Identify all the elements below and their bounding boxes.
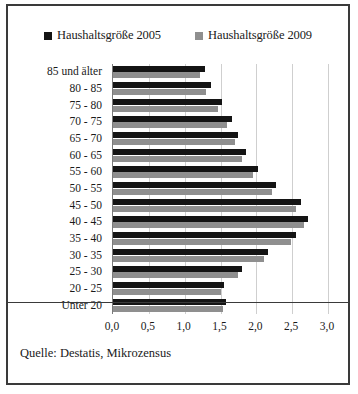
- legend-label-2005: Haushaltsgröße 2005: [57, 28, 161, 43]
- legend-label-2009: Haushaltsgröße 2009: [208, 28, 312, 43]
- legend-square-marker-2009: [195, 32, 203, 40]
- legend-square-marker-2005: [44, 32, 52, 40]
- bar-2005: [113, 199, 301, 205]
- bar-2005: [113, 249, 268, 255]
- y-axis-category-label: 50 - 55: [69, 183, 102, 195]
- bar-2009: [113, 89, 206, 95]
- y-axis-category-label: 75 - 80: [69, 100, 102, 112]
- x-tick-label: 1,5: [212, 320, 226, 332]
- bar-2005: [113, 166, 258, 172]
- y-axis-category-label: 65 - 70: [69, 133, 102, 145]
- bar-2009: [113, 139, 235, 145]
- bar-2005: [113, 182, 276, 188]
- bar-2009: [113, 206, 296, 212]
- bar-2009: [113, 256, 264, 262]
- bar-2005: [113, 99, 222, 105]
- y-axis-category-label: 30 - 35: [69, 250, 102, 262]
- bar-2009: [113, 189, 272, 195]
- bar-2009: [113, 172, 253, 178]
- bar-2009: [113, 222, 304, 228]
- bar-2005: [113, 66, 205, 72]
- bar-2009: [113, 122, 227, 128]
- x-tick-label: 2,5: [284, 320, 298, 332]
- x-tick-label: 1,0: [176, 320, 190, 332]
- bar-2005: [113, 149, 246, 155]
- bar-2005: [113, 216, 308, 222]
- plot-area: [112, 64, 328, 314]
- bar-2005: [113, 232, 296, 238]
- x-tick-label: 2,0: [248, 320, 262, 332]
- x-tick-label: 3,0: [320, 320, 334, 332]
- bar-2009: [113, 239, 291, 245]
- y-axis-category-label: 45 - 50: [69, 200, 102, 212]
- bar-2005: [113, 266, 242, 272]
- gridline: [292, 64, 293, 314]
- x-tick-label: 0,5: [141, 320, 155, 332]
- chart-legend: Haushaltsgröße 2005 Haushaltsgröße 2009: [8, 28, 348, 43]
- x-tick-label: 0,0: [105, 320, 119, 332]
- bar-2005: [113, 116, 232, 122]
- y-axis-category-label: 55 - 60: [69, 166, 102, 178]
- bar-2009: [113, 289, 221, 295]
- bar-2009: [113, 156, 242, 162]
- bar-2009: [113, 272, 238, 278]
- legend-entry-2005: Haushaltsgröße 2005: [44, 28, 161, 43]
- y-axis-category-label: 25 - 30: [69, 266, 102, 278]
- gridline: [328, 64, 329, 314]
- y-axis-category-label: 20 - 25: [69, 283, 102, 295]
- source-caption: Quelle: Destatis, Mikrozensus: [20, 346, 171, 361]
- y-axis-category-label: 60 - 65: [69, 150, 102, 162]
- y-axis-category-labels: 85 und älter80 - 8575 - 8070 - 7565 - 70…: [8, 64, 106, 314]
- bar-2009: [113, 306, 223, 312]
- y-axis-category-label: 80 - 85: [69, 83, 102, 95]
- bar-2005: [113, 282, 224, 288]
- x-axis-tick-labels: 0,00,51,01,52,02,53,0: [112, 314, 327, 338]
- figure-frame: Haushaltsgröße 2005 Haushaltsgröße 2009 …: [6, 4, 350, 385]
- y-axis-category-label: 35 - 40: [69, 233, 102, 245]
- bar-2009: [113, 72, 200, 78]
- caption-separator: [8, 302, 348, 303]
- y-axis-category-label: 40 - 45: [69, 216, 102, 228]
- bar-2005: [113, 82, 211, 88]
- y-axis-category-label: 70 - 75: [69, 116, 102, 128]
- y-axis-category-label: 85 und älter: [47, 66, 102, 78]
- bar-2009: [113, 106, 218, 112]
- bar-chart: 85 und älter80 - 8575 - 8070 - 7565 - 70…: [8, 64, 352, 324]
- legend-entry-2009: Haushaltsgröße 2009: [195, 28, 312, 43]
- bar-2005: [113, 132, 238, 138]
